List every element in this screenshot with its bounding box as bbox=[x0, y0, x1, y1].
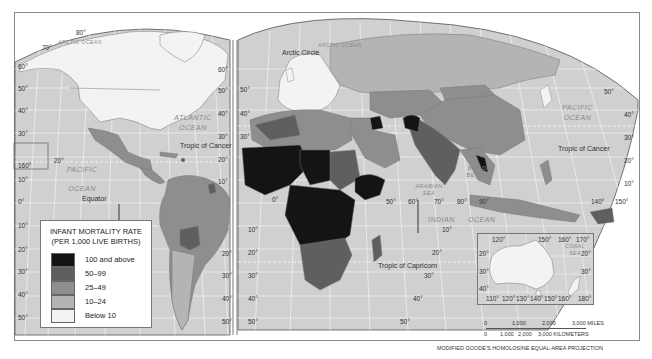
lat-label: 30° bbox=[424, 272, 434, 279]
lat-label: 30° bbox=[240, 133, 250, 140]
inset-lat-label: 40° bbox=[479, 285, 489, 292]
inset-lat-label: 30° bbox=[581, 268, 591, 275]
lat-label: 30° bbox=[18, 268, 28, 275]
lat-label: 30° bbox=[222, 272, 232, 279]
lat-label: 40° bbox=[624, 111, 634, 118]
inset-lon-label: 140° bbox=[530, 295, 543, 302]
scale-miles-3: 3,000 MILES bbox=[572, 320, 604, 326]
lat-label: 30° bbox=[248, 272, 258, 279]
inset-lon-label: 170° bbox=[576, 236, 589, 243]
lat-label: 40° bbox=[240, 110, 250, 117]
inset-lon-label: 150° bbox=[544, 295, 557, 302]
lon-label: 0° bbox=[272, 196, 278, 203]
indian-ocean-label-1: INDIAN bbox=[428, 215, 455, 225]
legend-swatch bbox=[51, 295, 75, 309]
projection-note: MODIFIED GOODE'S HOMOLOSINE EQUAL-AREA P… bbox=[437, 345, 603, 351]
legend: INFANT MORTALITY RATE (PER 1,000 LIVE BI… bbox=[40, 220, 152, 328]
lat-label: 40° bbox=[248, 295, 258, 302]
arabian-sea-label: ARABIAN SEA bbox=[412, 183, 446, 197]
legend-item: 10–24 bbox=[51, 295, 146, 309]
legend-label: 50–99 bbox=[85, 269, 106, 278]
lat-label: 10° bbox=[624, 180, 634, 187]
polar-label: 70° bbox=[42, 44, 52, 51]
scale-km-1: 1,000 bbox=[500, 331, 514, 337]
lon-label: 150° bbox=[615, 198, 628, 205]
inset-lat-label: 20° bbox=[479, 250, 489, 257]
lon-label: 140° bbox=[591, 198, 604, 205]
lat-label: 40° bbox=[18, 291, 28, 298]
legend-label: 25–49 bbox=[85, 283, 106, 292]
lon-label: 70° bbox=[434, 198, 444, 205]
lat-label: 20° bbox=[18, 246, 28, 253]
legend-item: 100 and above bbox=[51, 253, 146, 267]
hawaii-lon-label: 160° bbox=[18, 162, 31, 169]
inset-lat-label: 20° bbox=[581, 250, 591, 257]
legend-swatch bbox=[51, 253, 75, 267]
legend-label: Below 10 bbox=[85, 311, 116, 320]
scale-line bbox=[486, 328, 586, 329]
inset-lon-label: 180° bbox=[578, 295, 591, 302]
legend-item: 25–49 bbox=[51, 281, 146, 295]
lat-label: 50° bbox=[18, 85, 28, 92]
equator-label: Equator bbox=[82, 195, 107, 202]
arctic-circle-label: Arctic Circle bbox=[282, 49, 319, 56]
scale-km-0: 0 bbox=[484, 331, 487, 337]
lat-label: 20° bbox=[222, 250, 232, 257]
bay-of-bengal-label: BAY OF BENGAL bbox=[462, 165, 496, 179]
scale-km-3: 3,000 KILOMETERS bbox=[538, 331, 589, 337]
legend-subtitle: (PER 1,000 LIVE BIRTHS) bbox=[41, 237, 151, 247]
lat-label: 20° bbox=[218, 156, 228, 163]
lat-label: 50° bbox=[218, 87, 228, 94]
lon-label: 80° bbox=[457, 198, 467, 205]
legend-item: Below 10 bbox=[51, 309, 146, 323]
lat-label: 10° bbox=[18, 222, 28, 229]
legend-title: INFANT MORTALITY RATE bbox=[41, 227, 151, 237]
lat-label: 40° bbox=[218, 110, 228, 117]
legend-item: 50–99 bbox=[51, 267, 146, 281]
inset-lat-label: 30° bbox=[479, 268, 489, 275]
lat-label: 10° bbox=[442, 226, 452, 233]
lat-label: 50° bbox=[240, 86, 250, 93]
legend-swatch bbox=[51, 309, 75, 323]
lat-label: 50° bbox=[604, 88, 614, 95]
lat-label: 60° bbox=[18, 63, 28, 70]
atlantic-ocean-label: ATLANTIC OCEAN bbox=[168, 113, 218, 133]
lat-label: 40° bbox=[18, 107, 28, 114]
inset-lon-label: 150° bbox=[538, 236, 551, 243]
lon-label: 60° bbox=[408, 198, 418, 205]
lat-label: 20° bbox=[432, 249, 442, 256]
legend-label: 10–24 bbox=[85, 297, 106, 306]
australia-inset: 120° 150° 160° 170° CORAL SEA 20° 30° 40… bbox=[477, 233, 594, 305]
tropic-of-cancer-left-label: Tropic of Cancer bbox=[180, 142, 231, 149]
lat-label: 10° bbox=[218, 178, 228, 185]
inset-lon-label: 120° bbox=[502, 295, 515, 302]
indian-ocean-label-2: OCEAN bbox=[468, 215, 495, 225]
lat-label: 30° bbox=[218, 133, 228, 140]
lat-label: 0° bbox=[18, 198, 24, 205]
legend-swatch bbox=[51, 267, 75, 281]
polar-label: 80° bbox=[76, 29, 86, 36]
lat-label: 10° bbox=[248, 226, 258, 233]
lon-label: 90° bbox=[479, 198, 489, 205]
bolivia bbox=[180, 226, 200, 250]
lon-label: 50° bbox=[386, 198, 396, 205]
lat-label: 30° bbox=[18, 130, 28, 137]
arctic-ocean-right-label: ARCTIC OCEAN bbox=[318, 40, 362, 50]
lat-label: 60° bbox=[218, 66, 228, 73]
lat-label: 50° bbox=[222, 318, 232, 325]
inset-lon-label: 120° bbox=[492, 236, 505, 243]
inset-lon-label: 160° bbox=[558, 236, 571, 243]
lat-label: 50° bbox=[248, 318, 258, 325]
lat-label: 40° bbox=[413, 295, 423, 302]
hawaii-lat-label: 20° bbox=[54, 157, 64, 164]
inset-lon-label: 110° bbox=[486, 295, 499, 302]
lat-label: 10° bbox=[18, 176, 28, 183]
inset-lon-label: 130° bbox=[516, 295, 529, 302]
pacific-ocean-left-label: PACIFIC OCEAN bbox=[62, 160, 102, 198]
scale-miles-1: 1,000 bbox=[512, 320, 526, 326]
legend-label: 100 and above bbox=[85, 255, 135, 264]
lat-label: 20° bbox=[624, 157, 634, 164]
lat-label: 50° bbox=[18, 314, 28, 321]
scale-miles-2: 2,000 bbox=[542, 320, 556, 326]
lat-label: 50° bbox=[400, 318, 410, 325]
